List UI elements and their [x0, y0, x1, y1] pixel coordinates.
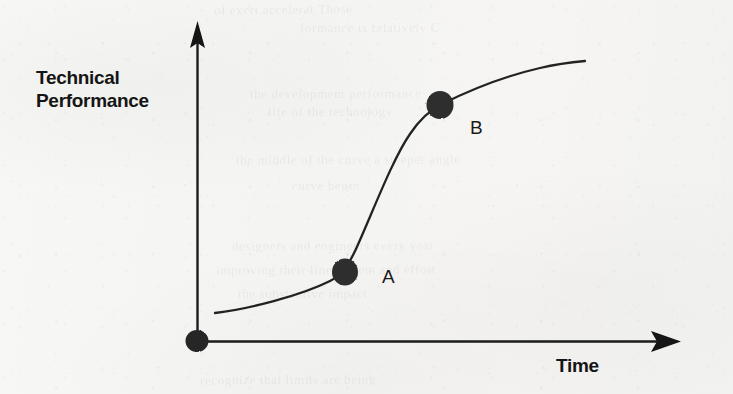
s-curve-diagram: [0, 0, 733, 394]
y-axis-label-line2: Performance: [36, 89, 149, 112]
marker-point-a: [332, 259, 358, 286]
point-b-label: B: [470, 117, 483, 139]
x-axis: [197, 331, 681, 352]
y-axis-label: Technical Performance: [36, 66, 149, 112]
s-curve-path: [215, 61, 585, 313]
y-axis: [190, 21, 205, 341]
marker-origin: [186, 330, 209, 352]
x-axis-label: Time: [556, 355, 599, 377]
figure-page: of exert accelerat Thoseformance is rela…: [0, 0, 733, 394]
point-a-label: A: [382, 266, 395, 288]
y-axis-label-line1: Technical: [36, 66, 149, 89]
marker-point-b: [427, 91, 454, 119]
